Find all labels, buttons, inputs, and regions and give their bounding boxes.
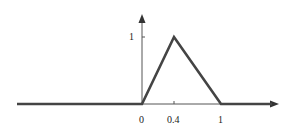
x-tick-label-1: 1 (218, 115, 223, 125)
plot-area (0, 0, 289, 129)
triangle-function-line (17, 37, 272, 104)
x-tick-label-0: 0 (139, 115, 144, 125)
x-tick-label-0.4: 0.4 (167, 115, 180, 125)
y-axis-arrow-icon (139, 14, 146, 23)
y-tick-label-1: 1 (129, 32, 134, 42)
chart: 1 0 0.4 1 (0, 0, 289, 129)
